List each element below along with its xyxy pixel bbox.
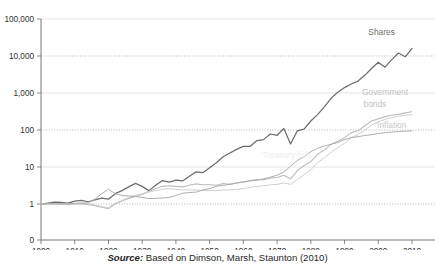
x-tick-marks [41,240,412,244]
caption-text: Based on Dimson, Marsh, Staunton (2010) [143,252,328,263]
y-tick-label-10000: 10,000 [9,52,34,61]
series-line-inflation [41,131,412,204]
x-tick-label-2010: 2010 [403,247,422,250]
chart-caption: Source: Based on Dimson, Marsh, Staunton… [0,252,435,263]
series-lines-group [41,48,412,208]
caption-source-word: Source: [107,252,143,263]
series-label-inflation: Inflation [377,120,407,130]
x-tick-label-2000: 2000 [369,247,388,250]
series-line-treasury-bills [41,115,412,208]
y-tick-label-100000: 100,000 [4,15,34,24]
series-label-government-bonds-line2: bonds [363,99,386,109]
y-tick-marks [37,19,41,240]
y-tick-labels: 100,00010,0001,0001001010 [4,15,34,245]
y-tick-label-1000: 1,000 [14,89,35,98]
y-tick-label-1: 1 [29,200,34,209]
x-tick-label-1920: 1920 [99,247,118,250]
x-tick-label-1980: 1980 [302,247,321,250]
x-tick-label-1930: 1930 [133,247,152,250]
series-label-shares: Shares [368,27,395,37]
series-line-shares [41,48,412,204]
x-tick-labels: 1900191019201930194019501960197019801990… [32,247,422,250]
chart-canvas: 100,00010,0001,0001001010 19001910192019… [0,0,435,250]
x-tick-label-1990: 1990 [335,247,354,250]
series-label-treasury-bills: Treasury bills [262,150,312,160]
chart-page: 100,00010,0001,0001001010 19001910192019… [0,0,435,276]
series-line-government-bonds [41,112,412,209]
x-tick-label-1970: 1970 [268,247,287,250]
x-tick-label-1940: 1940 [167,247,186,250]
y-tick-label-0: 0 [29,236,34,245]
x-tick-label-1960: 1960 [234,247,253,250]
y-tick-label-100: 100 [20,126,34,135]
y-tick-label-10: 10 [25,163,35,172]
series-label-government-bonds-line1: Government [362,87,409,97]
x-tick-label-1900: 1900 [32,247,51,250]
line-chart: 100,00010,0001,0001001010 19001910192019… [0,0,435,250]
x-tick-label-1910: 1910 [66,247,85,250]
x-tick-label-1950: 1950 [201,247,220,250]
gridlines-group [41,19,435,204]
